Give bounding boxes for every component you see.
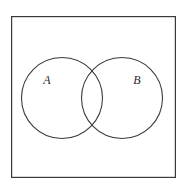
figure-background	[0, 0, 186, 184]
venn-diagram-canvas: A B	[0, 0, 186, 184]
venn-diagram-figure: A B	[0, 0, 186, 184]
set-b-label: B	[133, 73, 141, 87]
set-a-label: A	[42, 73, 51, 87]
